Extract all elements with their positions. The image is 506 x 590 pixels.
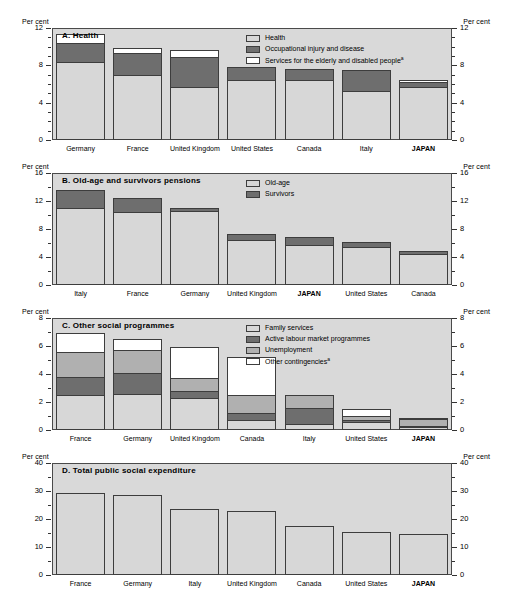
segment-active-labour-market-programmes [170, 391, 219, 398]
bar-italy[interactable] [56, 190, 105, 285]
tick-minor [48, 47, 51, 48]
bar-united-kingdom[interactable] [227, 234, 276, 285]
segment-health [227, 80, 276, 140]
legend-item[interactable]: Services for the elderly and disabled pe… [246, 55, 404, 65]
y-tick-label: 2 [460, 398, 464, 406]
tick-major [46, 374, 51, 375]
y-tick-label: 30 [460, 487, 468, 495]
bar-france[interactable] [56, 493, 105, 575]
x-label-united-states: United States [338, 434, 395, 443]
panel-d: Per centPer centD. Total public social e… [0, 453, 506, 590]
bar-japan[interactable] [399, 418, 448, 430]
y-tick-label: 8 [39, 61, 43, 69]
tick-major [46, 575, 51, 576]
y-tick-label: 8 [460, 61, 464, 69]
legend-swatch-icon [246, 57, 260, 64]
bar-canada[interactable] [227, 357, 276, 430]
x-label-canada: Canada [395, 289, 452, 298]
x-label-germany: Germany [109, 579, 166, 588]
bar-canada[interactable] [285, 69, 334, 140]
bar-france[interactable] [113, 48, 162, 140]
bar-japan[interactable] [285, 237, 334, 285]
x-label-italy: Italy [166, 579, 223, 588]
bar-france[interactable] [113, 198, 162, 285]
bar-united-kingdom[interactable] [227, 511, 276, 575]
bar-united-states[interactable] [227, 67, 276, 140]
segment-old-age [399, 254, 448, 285]
legend-label: Family services [265, 324, 313, 332]
bar-united-states[interactable] [342, 242, 391, 285]
segment-old-age [285, 245, 334, 285]
bar-germany[interactable] [170, 208, 219, 285]
tick-major [452, 103, 457, 104]
legend-item[interactable]: Unemployment [246, 345, 370, 355]
y-axis-unit-left: Per cent [22, 308, 49, 316]
tick-minor [452, 360, 455, 361]
figure-public-social-expenditure: Per centPer centA. Health0481204812Germa… [0, 0, 506, 590]
y-tick-label: 16 [460, 169, 468, 177]
x-label-japan: JAPAN [281, 289, 338, 298]
bar-italy[interactable] [285, 395, 334, 430]
tick-minor [452, 121, 455, 122]
y-tick-label: 12 [460, 197, 468, 205]
tick-major [46, 285, 51, 286]
tick-major [452, 402, 457, 403]
panel-title-b: B. Old-age and survivors pensions [62, 176, 201, 185]
x-label-united-kingdom: United Kingdom [166, 434, 223, 443]
x-label-united-kingdom: United Kingdom [223, 289, 280, 298]
legend-item[interactable]: Occupational injury and disease [246, 44, 404, 54]
legend-item[interactable]: Survivors [246, 189, 294, 199]
legend-item[interactable]: Other contingenciesa [246, 356, 370, 366]
bar-germany[interactable] [56, 34, 105, 140]
segment-total-public-social-expenditure [285, 526, 334, 575]
legend-swatch-icon [246, 180, 260, 187]
y-tick-label: 8 [39, 225, 43, 233]
legend-a: HealthOccupational injury and diseaseSer… [246, 33, 404, 66]
x-label-germany: Germany [52, 144, 109, 153]
legend-item[interactable]: Old-age [246, 178, 294, 188]
bar-japan[interactable] [399, 534, 448, 575]
segment-health [399, 87, 448, 140]
bar-united-states[interactable] [342, 409, 391, 430]
bar-italy[interactable] [170, 509, 219, 575]
bar-germany[interactable] [113, 495, 162, 575]
segment-unemployment [56, 352, 105, 377]
segment-family-services [227, 420, 276, 430]
segment-active-labour-market-programmes [113, 373, 162, 394]
tick-major [452, 519, 457, 520]
tick-minor [48, 561, 51, 562]
segment-old-age [227, 240, 276, 286]
tick-minor [452, 505, 455, 506]
bar-united-states[interactable] [342, 532, 391, 575]
bar-germany[interactable] [113, 339, 162, 430]
segment-occupational-injury-and-disease [285, 69, 334, 80]
tick-major [46, 257, 51, 258]
segment-unemployment [227, 395, 276, 413]
bar-france[interactable] [56, 333, 105, 430]
legend-item[interactable]: Health [246, 33, 404, 43]
bar-united-kingdom[interactable] [170, 347, 219, 430]
tick-major [46, 103, 51, 104]
x-label-united-states: United States [338, 289, 395, 298]
x-label-germany: Germany [166, 289, 223, 298]
legend-item[interactable]: Family services [246, 323, 370, 333]
tick-minor [48, 332, 51, 333]
tick-major [46, 491, 51, 492]
tick-major [46, 318, 51, 319]
tick-major [452, 547, 457, 548]
tick-major [46, 519, 51, 520]
legend-item[interactable]: Active labour market programmes [246, 334, 370, 344]
tick-major [452, 28, 457, 29]
legend-swatch-icon [246, 325, 260, 332]
bar-canada[interactable] [399, 251, 448, 285]
bar-italy[interactable] [342, 70, 391, 140]
y-tick-label: 20 [35, 515, 43, 523]
segment-unemployment [399, 419, 448, 426]
panel-title-a: A. Health [62, 31, 98, 40]
bar-canada[interactable] [285, 526, 334, 575]
y-tick-label: 4 [39, 253, 43, 261]
segment-active-labour-market-programmes [56, 377, 105, 395]
tick-minor [48, 416, 51, 417]
bar-japan[interactable] [399, 80, 448, 140]
bar-united-kingdom[interactable] [170, 50, 219, 140]
